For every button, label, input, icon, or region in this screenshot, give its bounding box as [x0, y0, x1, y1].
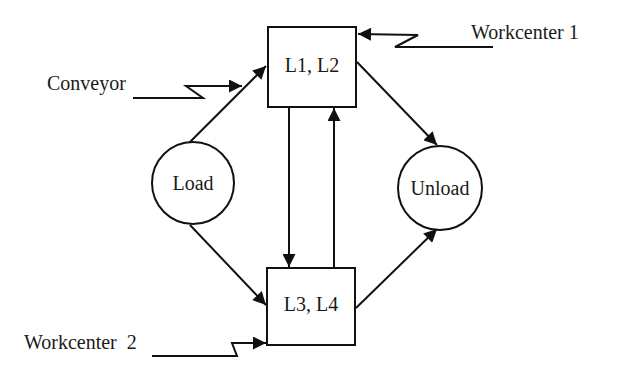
edge-load-to-l3l4	[190, 225, 266, 305]
edge-load-to-l1l2	[189, 66, 266, 143]
l1-l2-label: L1, L2	[285, 54, 339, 76]
unload-label: Unload	[411, 177, 470, 199]
workcenter2-input-arrow	[152, 343, 266, 356]
node-load: Load	[152, 142, 234, 224]
node-l1-l2: L1, L2	[268, 27, 356, 107]
workcenter2-label: Workcenter 2	[24, 331, 137, 353]
flow-diagram: Load Unload L1, L2 L3, L4 Conveyor Workc…	[0, 0, 632, 376]
workcenter1-label: Workcenter 1	[471, 21, 579, 43]
conveyor-input-arrow	[133, 86, 242, 98]
load-label: Load	[172, 172, 213, 194]
edge-l3l4-to-unload	[356, 229, 437, 308]
node-l3-l4: L3, L4	[267, 268, 355, 345]
conveyor-label: Conveyor	[47, 72, 126, 95]
edge-l1l2-to-unload	[357, 62, 437, 145]
node-unload: Unload	[398, 146, 482, 230]
l3-l4-label: L3, L4	[284, 293, 338, 315]
